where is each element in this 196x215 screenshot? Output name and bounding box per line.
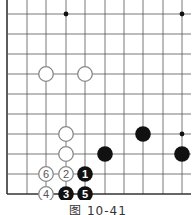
white-stone-shape — [78, 67, 93, 82]
white-stone: 4 — [39, 187, 54, 200]
go-board: 123456 — [0, 0, 196, 200]
move-number: 1 — [82, 168, 88, 180]
stones: 123456 — [39, 67, 190, 200]
white-stone-shape — [59, 127, 74, 142]
grid-lines — [7, 0, 191, 194]
black-stone-shape — [174, 146, 190, 162]
black-stone — [97, 146, 113, 162]
move-number: 3 — [63, 188, 69, 200]
black-stone-shape — [97, 146, 113, 162]
move-number: 5 — [82, 188, 88, 200]
star-point — [180, 132, 185, 137]
white-stone: 2 — [59, 167, 74, 182]
black-stone — [135, 126, 151, 142]
white-stone — [39, 67, 54, 82]
black-stone: 1 — [77, 166, 93, 182]
white-stone — [59, 147, 74, 162]
white-stone-shape — [59, 147, 74, 162]
white-stone: 6 — [39, 167, 54, 182]
black-stone: 5 — [77, 186, 93, 200]
white-stone — [59, 127, 74, 142]
black-stone — [174, 146, 190, 162]
star-point — [180, 12, 185, 17]
move-number: 4 — [43, 188, 49, 200]
star-point — [64, 12, 69, 17]
figure-caption: 图 10-41 — [0, 201, 196, 215]
move-number: 2 — [63, 168, 69, 180]
white-stone-shape — [39, 67, 54, 82]
white-stone — [78, 67, 93, 82]
move-number: 6 — [43, 168, 49, 180]
black-stone-shape — [135, 126, 151, 142]
black-stone: 3 — [58, 186, 74, 200]
